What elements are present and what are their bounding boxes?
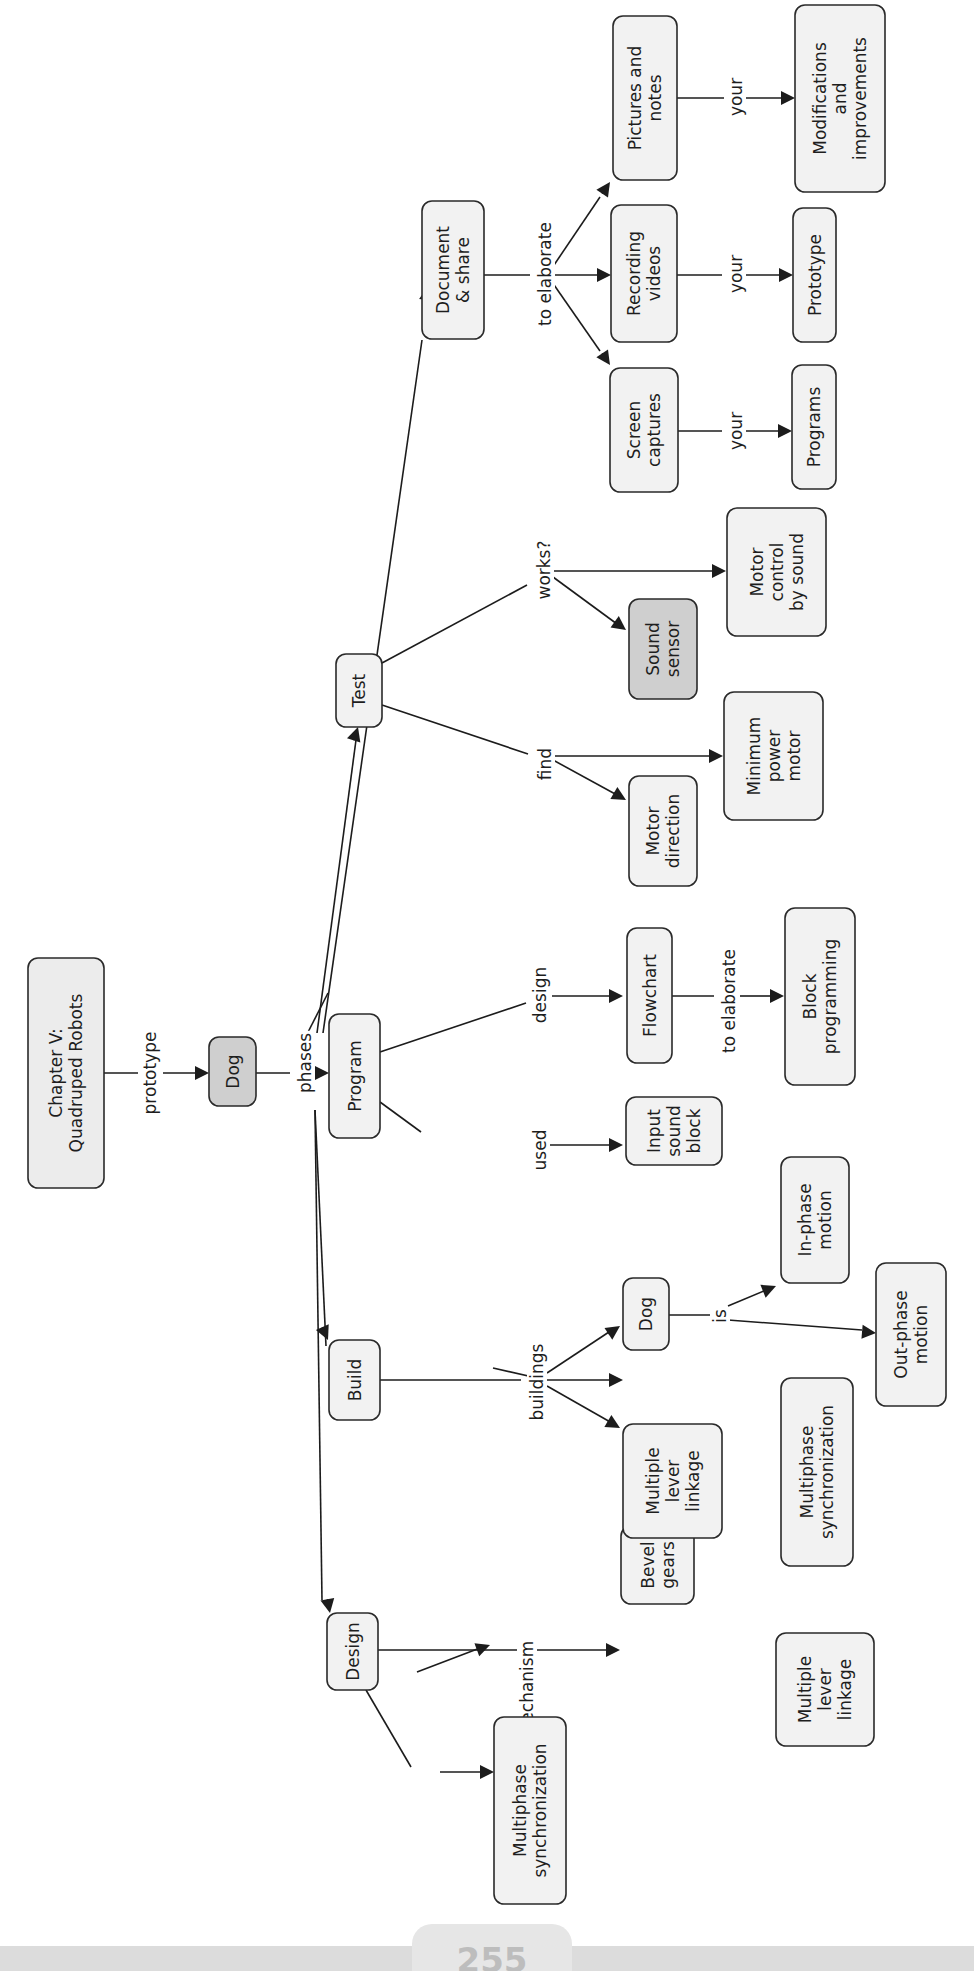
link-label-find: find — [535, 746, 555, 782]
link-label-your-3: your — [726, 76, 746, 118]
svg-text:used: used — [530, 1130, 550, 1171]
nodes-layer: Chapter V:Quadruped RobotsDogDesignBuild… — [28, 5, 946, 1904]
connector-line — [317, 740, 356, 1033]
node-block-programming: Blockprogramming — [785, 908, 855, 1085]
page-number: 255 — [412, 1940, 572, 1971]
connector-line — [552, 282, 600, 351]
node-modifications-improvements: Modificationsandimprovements — [795, 5, 885, 192]
node-label: Programs — [804, 387, 824, 468]
node-sound-sensor: Soundsensor — [629, 599, 697, 699]
svg-text:your: your — [726, 412, 746, 450]
node-label: linkage — [835, 1659, 855, 1720]
node-program: Program — [329, 1014, 380, 1138]
arrowhead-icon — [609, 1138, 623, 1152]
connector-line — [547, 1330, 612, 1373]
node-label: Design — [343, 1622, 363, 1681]
node-recording-videos: Recordingvideos — [611, 205, 677, 342]
node-label: Out-phase — [891, 1290, 911, 1378]
connector-line — [380, 1102, 421, 1132]
node-label: Multiple — [795, 1656, 815, 1724]
node-label: motion — [911, 1305, 931, 1365]
node-label: synchronization — [530, 1743, 550, 1877]
arrowhead-icon — [611, 616, 631, 636]
node-chapter: Chapter V:Quadruped Robots — [28, 958, 104, 1188]
node-motor-direction: Motordirection — [629, 776, 697, 886]
link-label-to-elaborate-doc: to elaborate — [535, 220, 555, 328]
node-label: videos — [644, 246, 664, 301]
node-label: Build — [345, 1359, 365, 1402]
link-label-phases: phases — [295, 1031, 315, 1095]
node-build-dog: Dog — [623, 1278, 669, 1350]
node-label: Multiple — [643, 1447, 663, 1515]
arrowhead-icon — [596, 349, 615, 368]
node-label: by sound — [787, 533, 807, 611]
node-label: notes — [645, 74, 665, 121]
node-prototype: Prototype — [793, 208, 836, 342]
node-label: control — [767, 543, 787, 602]
node-design-multiphase-sync: Multiphasesynchronization — [494, 1717, 566, 1904]
node-label: programming — [820, 939, 840, 1054]
arrowhead-icon — [609, 1373, 623, 1387]
arrowhead-icon — [779, 268, 793, 282]
node-label: lever — [663, 1460, 683, 1503]
node-design: Design — [327, 1613, 378, 1690]
edges-layer — [104, 91, 877, 1779]
node-label: In-phase — [795, 1183, 815, 1256]
svg-text:to elaborate: to elaborate — [719, 949, 739, 1053]
arrowhead-icon — [760, 1280, 778, 1298]
svg-text:your: your — [726, 78, 746, 116]
svg-text:is: is — [710, 1309, 730, 1323]
arrowhead-icon — [474, 1638, 492, 1656]
node-programs: Programs — [792, 365, 836, 489]
link-label-design-label: design — [530, 965, 550, 1025]
node-build: Build — [329, 1340, 380, 1420]
node-label: Sound — [643, 622, 663, 676]
connector-line — [553, 760, 617, 795]
arrowhead-icon — [604, 1415, 623, 1434]
node-label: synchronization — [817, 1405, 837, 1539]
node-input-sound-block: Inputsoundblock — [626, 1097, 722, 1165]
node-label: Bevel — [638, 1541, 658, 1588]
arrowhead-icon — [320, 1598, 336, 1614]
arrowhead-icon — [596, 178, 615, 197]
link-label-buildings: buildings — [527, 1341, 547, 1422]
node-label: gears — [658, 1541, 678, 1589]
node-label: Program — [345, 1040, 365, 1112]
arrowhead-icon — [778, 424, 792, 438]
node-label: motion — [815, 1190, 835, 1250]
node-screen-captures: Screencaptures — [610, 368, 678, 492]
svg-text:works?: works? — [534, 540, 554, 599]
connector-line — [728, 1320, 862, 1330]
node-label: power — [764, 730, 784, 783]
node-label: Dog — [223, 1054, 243, 1088]
connector-line — [552, 197, 600, 268]
node-label: Screen — [624, 401, 644, 459]
link-label-works: works? — [534, 538, 554, 601]
connector-line — [417, 1648, 480, 1672]
node-design-multiple-lever: Multipleleverlinkage — [776, 1633, 874, 1746]
connector-line — [382, 585, 527, 663]
svg-text:design: design — [530, 967, 550, 1023]
node-label: Modifications — [810, 42, 830, 155]
svg-text:buildings: buildings — [527, 1343, 547, 1420]
node-build-multiple-lever: Multipleleverlinkage — [623, 1424, 722, 1538]
node-label: block — [684, 1108, 704, 1153]
svg-text:to elaborate: to elaborate — [535, 222, 555, 326]
node-label: Recording — [624, 231, 644, 316]
arrowhead-icon — [195, 1066, 209, 1080]
svg-text:prototype: prototype — [140, 1032, 160, 1115]
node-label: Input — [644, 1109, 664, 1153]
node-label: improvements — [850, 37, 870, 160]
node-label: linkage — [683, 1450, 703, 1511]
arrowhead-icon — [781, 91, 795, 105]
node-label: Chapter V: — [46, 1028, 66, 1117]
link-label-your-2: your — [726, 253, 746, 295]
svg-text:your: your — [726, 255, 746, 293]
node-label: Test — [349, 673, 369, 708]
node-label: sensor — [663, 621, 683, 677]
node-in-phase-motion: In-phasemotion — [781, 1157, 849, 1283]
node-dog-root: Dog — [209, 1037, 256, 1106]
link-label-to-elaborate-program: to elaborate — [719, 947, 739, 1055]
node-pictures-and-notes: Pictures andnotes — [613, 16, 677, 180]
node-out-phase-motion: Out-phasemotion — [876, 1263, 946, 1406]
